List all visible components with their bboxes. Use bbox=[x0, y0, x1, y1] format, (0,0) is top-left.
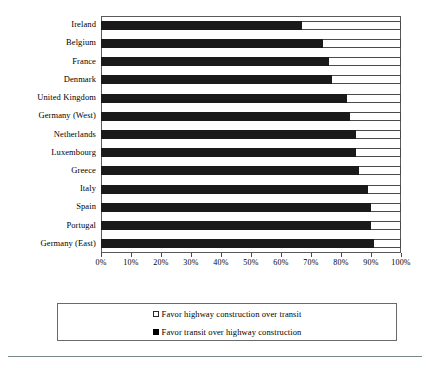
bar-segment-transit bbox=[101, 21, 302, 30]
category-label: France bbox=[0, 57, 96, 66]
bar-segment-transit bbox=[101, 39, 323, 48]
bar-row bbox=[101, 130, 401, 139]
x-axis-tick bbox=[131, 253, 132, 257]
bar-row bbox=[101, 39, 401, 48]
category-label: Germany (West) bbox=[0, 111, 96, 120]
bar-row bbox=[101, 166, 401, 175]
bar-row bbox=[101, 57, 401, 66]
bar-segment-transit bbox=[101, 239, 374, 248]
legend-label-highway: Favor highway construction over transit bbox=[162, 309, 302, 319]
x-axis-tick bbox=[281, 253, 282, 257]
category-label: Belgium bbox=[0, 38, 96, 47]
page-divider bbox=[8, 356, 422, 357]
bar-row bbox=[101, 221, 401, 230]
bar-segment-transit bbox=[101, 221, 371, 230]
bar-segment-highway bbox=[302, 21, 401, 30]
x-axis-tick bbox=[161, 253, 162, 257]
bar-segment-highway bbox=[329, 57, 401, 66]
bar-row bbox=[101, 21, 401, 30]
category-label: United Kingdom bbox=[0, 93, 96, 102]
bar-segment-highway bbox=[359, 166, 401, 175]
category-label: Ireland bbox=[0, 20, 96, 29]
legend-entry-transit: Favor transit over highway construction bbox=[58, 323, 396, 341]
bar-segment-transit bbox=[101, 148, 356, 157]
bar-segment-transit bbox=[101, 57, 329, 66]
bar-segment-highway bbox=[332, 75, 401, 84]
bar-segment-highway bbox=[371, 221, 401, 230]
x-axis-tick bbox=[251, 253, 252, 257]
bar-segment-transit bbox=[101, 75, 332, 84]
x-axis-tick bbox=[221, 253, 222, 257]
category-label: Spain bbox=[0, 202, 96, 211]
bar-segment-transit bbox=[101, 203, 371, 212]
x-axis-tick bbox=[341, 253, 342, 257]
bar-row bbox=[101, 148, 401, 157]
legend-entry-highway: Favor highway construction over transit bbox=[58, 305, 396, 323]
x-axis-tick-label: 100% bbox=[381, 258, 421, 268]
bar-row bbox=[101, 185, 401, 194]
bar-row bbox=[101, 203, 401, 212]
category-label: Italy bbox=[0, 184, 96, 193]
bar-segment-highway bbox=[323, 39, 401, 48]
legend-label-transit: Favor transit over highway construction bbox=[162, 327, 302, 337]
bar-segment-transit bbox=[101, 130, 356, 139]
bar-segment-transit bbox=[101, 112, 350, 121]
bar-segment-highway bbox=[368, 185, 401, 194]
bar-segment-highway bbox=[371, 203, 401, 212]
x-axis-tick bbox=[401, 253, 402, 257]
bar-segment-highway bbox=[347, 94, 401, 103]
bar-segment-highway bbox=[374, 239, 401, 248]
x-axis-tick bbox=[101, 253, 102, 257]
bar-row bbox=[101, 112, 401, 121]
category-label: Portugal bbox=[0, 221, 96, 230]
category-label: Denmark bbox=[0, 75, 96, 84]
x-axis-tick bbox=[191, 253, 192, 257]
category-label: Greece bbox=[0, 166, 96, 175]
filled-square-icon bbox=[153, 329, 159, 335]
bar-chart: IrelandBelgiumFranceDenmarkUnited Kingdo… bbox=[0, 0, 430, 290]
bar-segment-transit bbox=[101, 185, 368, 194]
bar-segment-highway bbox=[356, 148, 401, 157]
open-square-icon bbox=[153, 311, 159, 317]
x-axis-tick bbox=[311, 253, 312, 257]
bar-segment-highway bbox=[356, 130, 401, 139]
bar-row bbox=[101, 239, 401, 248]
bar-segment-highway bbox=[350, 112, 401, 121]
chart-legend: Favor highway construction over transit … bbox=[57, 303, 397, 341]
bar-segment-transit bbox=[101, 166, 359, 175]
category-label: Germany (East) bbox=[0, 239, 96, 248]
bar-segment-transit bbox=[101, 94, 347, 103]
category-label: Luxembourg bbox=[0, 148, 96, 157]
category-label: Netherlands bbox=[0, 130, 96, 139]
x-axis-tick bbox=[371, 253, 372, 257]
bar-row bbox=[101, 75, 401, 84]
bar-row bbox=[101, 94, 401, 103]
